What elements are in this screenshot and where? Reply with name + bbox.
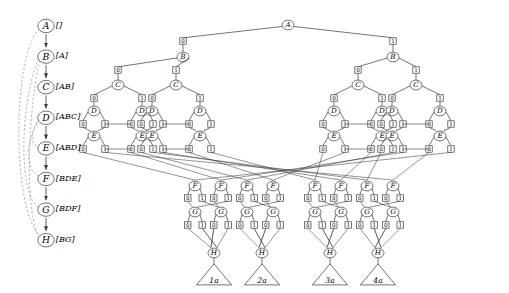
order-node-label-B: B [42,51,50,62]
edge-C3-D1 [422,86,440,95]
edge-box-value: 1 [226,222,230,228]
edge-A-B-1 [294,27,393,38]
order-node-label-A: A [42,20,50,31]
edge-D0-low [83,112,88,121]
edge-box-value: 0 [129,121,133,127]
bdd-node-label-C-3: C [413,80,419,89]
edge-D4-low [323,112,328,121]
bdd-node-label-E-3: E [196,131,203,140]
edge-box-value: 0 [81,146,85,152]
bundle-E0-F-a [83,152,195,180]
bdd-node-label-F-5: F [338,181,345,190]
edge-box-value: 0 [332,222,336,228]
edge-box-value: 1 [391,38,395,44]
edge-E2-high [158,137,163,146]
bdd-node-label-C-2: C [355,80,361,89]
edge-box-value: 0 [212,222,216,228]
edge-box-value: 1 [252,195,256,201]
edge-box-value: 1 [151,146,155,152]
edge-box-value: 0 [384,222,388,228]
bdd-node-label-D-0: D [90,106,97,115]
edge-C1-D0 [152,86,170,95]
edge-E3-high [206,137,211,146]
edge-box-value: 1 [174,67,178,73]
bundle-E7-F-b [195,152,451,180]
edge-D3-high [206,112,211,121]
edge-C1-D1 [182,86,200,95]
edge-box-value: 0 [238,222,242,228]
terminal-label: 3a [325,276,335,285]
edge-E0-low [83,137,88,146]
edge-Gbox-H-6-0 [360,228,375,247]
edge-C2-D1 [364,86,382,95]
order-node-label-C: C [42,81,49,92]
edge-Fbox-G-6-0 [360,201,365,207]
edge-box-value: 0 [369,146,373,152]
edge-box-to-E-0-1 [98,127,105,131]
edge-box-to-E-3-0 [189,127,196,131]
edge-D1-low [131,112,136,121]
bdd-node-label-C-1: C [173,80,179,89]
edge-B1-C0 [358,58,387,67]
edge-Fbox-G-0-0 [188,201,193,207]
edge-F2-high [252,188,254,195]
edge-box-value: 0 [150,95,154,101]
bdd-node-label-G-2: G [244,207,250,216]
edge-G7-high [398,214,400,222]
edge-box-value: 0 [384,195,388,201]
edge-Gbox-H-1-1 [217,228,228,247]
edge-box-value: 0 [358,222,362,228]
edge-box-value: 0 [306,222,310,228]
bdd-node-label-G-7: G [390,207,396,216]
edge-box-value: 0 [264,195,268,201]
edge-C2-D0 [334,86,352,95]
support-set-F: [BDE] [56,173,81,183]
bdd-node-label-E-5: E [378,131,385,140]
edge-box-value: 1 [198,95,202,101]
bdd-node-label-C-0: C [115,80,121,89]
edge-G0-high [200,214,202,222]
bdd-node-label-G-4: G [312,207,318,216]
edge-box-value: 0 [139,146,143,152]
edge-box-value: 0 [264,222,268,228]
edge-box-value: 0 [332,195,336,201]
edge-cross-H-3-a [374,228,381,247]
edge-box-value: 0 [379,146,383,152]
edge-G4-high [320,214,322,222]
edge-E7-low [429,137,434,146]
bdd-node-label-H-0: H [210,248,218,257]
edge-box-value: 1 [343,146,347,152]
edge-G2-high [252,214,254,222]
edge-F7-high [398,188,400,195]
edge-box-to-E-7-0 [429,127,436,131]
edge-box-value: 1 [372,195,376,201]
edge-E1-low [131,137,136,146]
edge-box-to-E-4-1 [338,127,345,131]
edge-box-value: 0 [306,195,310,201]
edge-box-value: 1 [391,121,395,127]
edge-E0-high [100,137,105,146]
edge-F1-high [226,188,228,195]
edge-box-value: 0 [369,121,373,127]
edge-box-value: 1 [346,222,350,228]
bdd-node-label-E-1: E [138,131,145,140]
edge-F7-low [386,188,388,195]
edge-Fbox-G-2-0 [240,201,245,207]
edge-G5-high [346,214,348,222]
edge-box-value: 1 [161,121,165,127]
edge-D4-high [340,112,345,121]
bdd-node-label-F-6: F [364,181,371,190]
edge-box-value: 1 [278,222,282,228]
bdd-node-label-D-3: D [196,106,203,115]
edge-Fbox-G-3-1 [250,201,281,207]
bdd-node-label-D-4: D [330,106,337,115]
edge-box-value: 1 [343,121,347,127]
edge-F0-high [200,188,202,195]
edge-box-value: 0 [92,95,96,101]
edge-F0-low [188,188,190,195]
edge-box-value: 0 [81,121,85,127]
edge-box-value: 1 [320,195,324,201]
edge-D7-high [446,112,451,121]
order-node-label-E: E [42,142,50,153]
edge-box-value: 1 [372,222,376,228]
